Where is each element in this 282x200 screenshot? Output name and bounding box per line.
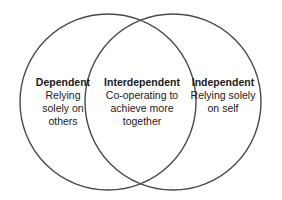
dependent-title: Dependent	[28, 76, 98, 89]
interdependent-description: Co-operating to achieve more together	[102, 89, 182, 128]
independent-description: Relying solely on self	[186, 89, 260, 115]
independent-title: Independent	[186, 76, 260, 89]
interdependent-region-label: Interdependent Co-operating to achieve m…	[102, 76, 182, 128]
dependent-region-label: Dependent Relying solely on others	[28, 76, 98, 128]
independent-region-label: Independent Relying solely on self	[186, 76, 260, 115]
dependent-description: Relying solely on others	[28, 89, 98, 128]
interdependent-title: Interdependent	[102, 76, 182, 89]
